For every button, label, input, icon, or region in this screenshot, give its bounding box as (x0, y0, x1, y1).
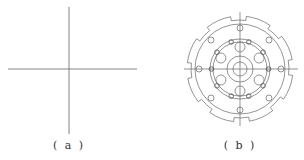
figure-a-caption: ( a ) (49, 139, 89, 152)
crosshair-drawing (0, 0, 152, 160)
figure-b-caption: ( b ) (220, 139, 260, 152)
figure-a: ( a ) (0, 0, 152, 160)
gear-drawing (152, 0, 304, 160)
figure-b: ( b ) (152, 0, 304, 160)
